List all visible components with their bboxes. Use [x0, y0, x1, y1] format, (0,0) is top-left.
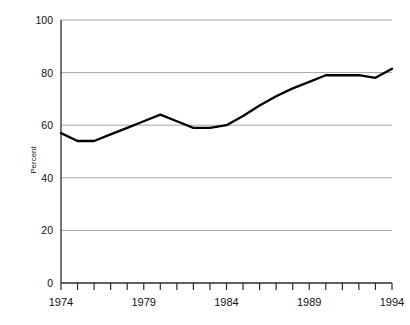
y-axis-tick-label: 20 — [41, 224, 53, 236]
x-axis-tick-label: 1989 — [297, 296, 321, 308]
x-axis-tick-label: 1979 — [132, 296, 156, 308]
y-axis-tick-label: 80 — [41, 67, 53, 79]
x-axis-tick-label: 1994 — [380, 296, 404, 308]
y-axis-tick-label: 40 — [41, 172, 53, 184]
y-axis-tick-labels: 020406080100 — [35, 14, 53, 289]
x-axis-tick-label: 1984 — [214, 296, 238, 308]
y-axis-tick-label: 60 — [41, 119, 53, 131]
x-axis-tick-marks — [61, 283, 392, 290]
x-axis-tick-labels: 19741979198419891994 — [49, 296, 404, 308]
y-axis-title: Percent — [29, 145, 38, 173]
chart-container: 020406080100 19741979198419891994 Percen… — [0, 0, 410, 325]
data-series-line — [61, 69, 392, 141]
x-axis-tick-label: 1974 — [49, 296, 73, 308]
y-axis-tick-label: 100 — [35, 14, 53, 26]
y-axis-tick-label: 0 — [47, 277, 53, 289]
line-chart: 020406080100 19741979198419891994 Percen… — [0, 0, 410, 325]
